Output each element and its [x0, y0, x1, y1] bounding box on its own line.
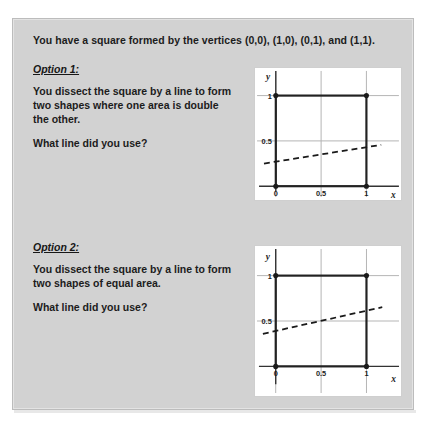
svg-text:0.5: 0.5 — [316, 369, 326, 378]
option-1-question: What line did you use? — [33, 137, 258, 149]
option-2-heading: Option 2: — [33, 241, 258, 253]
option-2-chart-card: 1 0.5 0 0.5 1 y x — [254, 245, 402, 397]
option-2-chart: 1 0.5 0 0.5 1 y x — [255, 246, 401, 396]
svg-text:0.5: 0.5 — [262, 137, 272, 146]
chart-1-tick-labels: 1 0.5 0 0.5 1 — [262, 92, 369, 199]
svg-text:0: 0 — [274, 369, 278, 378]
option-2-block: Option 2: You dissect the square by a li… — [33, 241, 258, 313]
chart-2-x-axis-label: x — [390, 374, 396, 384]
option-1-description: You dissect the square by a line to form… — [33, 84, 233, 126]
svg-text:0.5: 0.5 — [316, 189, 326, 198]
option-1-chart: 1 0.5 0 0.5 1 y x — [255, 68, 401, 200]
svg-text:1: 1 — [364, 189, 368, 198]
chart-1-x-axis-label: x — [390, 190, 396, 200]
chart-1-axis-titles: y x — [265, 72, 396, 200]
chart-1-axes — [259, 71, 399, 191]
svg-text:0: 0 — [274, 189, 278, 198]
chart-1-y-axis-label: y — [265, 72, 271, 82]
svg-text:1: 1 — [268, 272, 272, 281]
option-1-block: Option 1: You dissect the square by a li… — [33, 63, 258, 149]
svg-text:0.5: 0.5 — [262, 317, 272, 326]
chart-2-gridlines — [257, 249, 399, 393]
chart-2-y-axis-label: y — [265, 252, 271, 262]
chart-1-dissecting-line — [264, 145, 381, 164]
svg-text:1: 1 — [364, 369, 368, 378]
option-2-description: You dissect the square by a line to form… — [33, 262, 233, 290]
svg-text:1: 1 — [268, 92, 272, 101]
panel-drop-shadow — [14, 410, 416, 413]
worksheet-panel: You have a square formed by the vertices… — [12, 18, 414, 410]
chart-2-axes — [259, 249, 399, 384]
page-title: You have a square formed by the vertices… — [33, 34, 398, 46]
chart-2-tick-labels: 1 0.5 0 0.5 1 — [262, 272, 369, 379]
option-1-heading: Option 1: — [33, 63, 258, 75]
option-1-chart-card: 1 0.5 0 0.5 1 y x — [254, 67, 402, 201]
option-2-question: What line did you use? — [33, 301, 258, 313]
chart-1-gridlines — [257, 71, 399, 197]
